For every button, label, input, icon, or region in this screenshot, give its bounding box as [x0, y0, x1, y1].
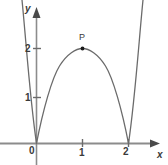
point-p-marker [81, 47, 85, 51]
curve-path [22, 0, 143, 144]
x-tick-label-1: 1 [79, 148, 85, 158]
x-axis-label: x [157, 150, 163, 160]
x-axis-arrow-icon [150, 140, 160, 148]
y-tick-label-2: 2 [25, 44, 31, 54]
x-tick-label-2: 2 [123, 147, 129, 157]
y-tick-label-1: 1 [25, 93, 31, 103]
y-axis-arrow-icon [33, 7, 41, 18]
point-p-label: P [79, 33, 85, 42]
y-axis-label: y [25, 4, 31, 14]
origin-label: 0 [29, 146, 35, 156]
plot-canvas [0, 0, 168, 165]
graph-figure: y x 2 1 0 1 2 P [0, 0, 168, 165]
